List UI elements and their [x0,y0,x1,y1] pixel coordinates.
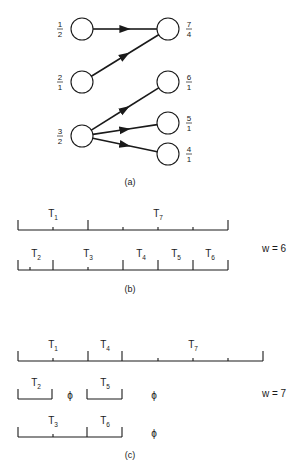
task-label: T4 [136,248,146,261]
schedule-c-row-2: T2T5ϕϕ [18,377,157,401]
caption-a: (a) [125,177,136,187]
task-node: 21 [57,71,93,93]
node-label-numerator: 3 [58,127,63,136]
task-node: 51 [157,112,192,134]
task-label: T7 [153,208,163,221]
node-label-denominator: 2 [58,137,63,146]
task-label: T5 [100,377,110,390]
schedule-part-c: T1T4T7T2T5ϕϕT3T6ϕ w = 7 (c) [18,339,287,460]
node-label-numerator: 5 [187,114,192,123]
arrow-icon [91,109,125,130]
task-label: T1 [48,339,58,352]
task-label: T4 [100,339,110,352]
node-label-numerator: 4 [187,145,192,154]
task-node: 12 [57,18,93,40]
idle-phi-icon: ϕ [151,428,157,439]
task-label: T7 [188,339,198,352]
schedule-b-row-2: T2T3T4T5T6 [18,248,228,270]
schedule-part-b: T1T7T2T3T4T5T6 w = 6 (b) [18,208,287,294]
arrow-icon [93,138,125,145]
schedule-c-row-3: T3T6ϕ [18,415,157,439]
node-circle [71,125,93,147]
edge-n3-n6 [91,88,158,130]
node-circle [71,18,93,40]
node-label-denominator: 4 [187,30,192,39]
caption-c: (c) [125,450,136,460]
node-circle [71,71,93,93]
node-circle [157,71,179,93]
caption-b: (b) [125,284,136,294]
task-label: T5 [171,248,181,261]
node-label-denominator: 1 [187,83,192,92]
edge-n3-n5 [93,125,157,135]
node-circle [157,143,179,165]
task-label: T6 [205,248,215,261]
task-node: 32 [57,125,93,147]
idle-phi-icon: ϕ [151,390,157,401]
node-label-numerator: 6 [187,73,192,82]
task-label: T1 [48,208,58,221]
node-label-numerator: 1 [58,20,63,29]
width-label-c: w = 7 [261,388,287,399]
task-node: 74 [157,18,192,40]
task-node: 61 [157,71,192,93]
task-label: T2 [31,248,41,261]
task-node: 41 [157,143,192,165]
task-label: T6 [100,415,110,428]
node-circle [157,112,179,134]
node-label-numerator: 7 [187,20,192,29]
task-graph-edges [91,29,158,152]
task-graph-nodes: 12213274615141 [57,18,192,165]
node-label-denominator: 2 [58,30,63,39]
node-circle [157,18,179,40]
edge-n3-n4 [93,138,157,151]
node-label-denominator: 1 [187,124,192,133]
task-label: T2 [31,377,41,390]
task-graph-part-a: 12213274615141 (a) [57,18,192,187]
node-label-denominator: 1 [58,83,63,92]
schedule-b-row-1: T1T7 [18,208,228,230]
edge-n2-n7 [91,35,158,76]
node-label-denominator: 1 [187,155,192,164]
arrow-icon [91,56,125,77]
schedule-c-row-1: T1T4T7 [18,339,263,361]
task-label: T3 [48,415,58,428]
scheduling-figure: 12213274615141 (a) T1T7T2T3T4T5T6 w = 6 … [0,0,297,474]
width-label-b: w = 6 [261,243,287,254]
arrow-icon [93,130,125,135]
task-label: T3 [83,248,93,261]
idle-phi-icon: ϕ [67,390,73,401]
node-label-numerator: 2 [58,73,63,82]
